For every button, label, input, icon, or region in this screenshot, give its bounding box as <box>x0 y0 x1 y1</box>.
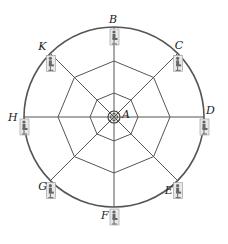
spoke-line <box>50 117 114 181</box>
point-g: G <box>38 180 55 199</box>
seated-person-icon <box>174 55 183 71</box>
center-label: A <box>121 108 130 121</box>
seated-person-icon <box>200 119 209 135</box>
seated-person-icon <box>110 209 119 225</box>
circular-web-diagram: A BCDEFGHK <box>0 0 228 244</box>
point-label: D <box>205 104 215 117</box>
seated-person-icon <box>20 119 29 135</box>
spoke-line <box>114 117 178 181</box>
point-f: F <box>100 209 119 225</box>
point-label: B <box>108 13 117 26</box>
point-label: E <box>164 184 173 197</box>
point-b: B <box>108 13 119 45</box>
spoke-line <box>50 53 114 117</box>
seated-person-icon <box>46 183 55 199</box>
seated-person-icon <box>46 55 55 71</box>
point-label: C <box>175 39 184 52</box>
point-h: H <box>7 111 29 135</box>
point-label: H <box>7 111 18 124</box>
seated-person-icon <box>110 29 119 45</box>
point-label: K <box>37 40 47 53</box>
point-label: G <box>38 180 47 193</box>
seated-person-icon <box>174 183 183 199</box>
point-d: D <box>200 104 215 135</box>
web-structure <box>24 27 204 207</box>
point-label: F <box>100 209 109 222</box>
point-c: C <box>174 39 184 71</box>
